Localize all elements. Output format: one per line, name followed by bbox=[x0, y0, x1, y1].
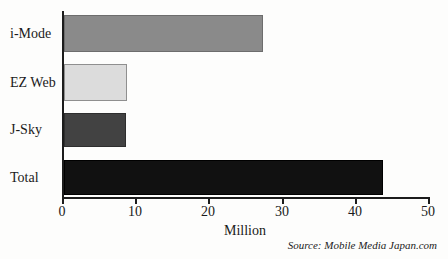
x-tick-label-40: 40 bbox=[335, 204, 375, 220]
category-label-total: Total bbox=[10, 169, 62, 187]
x-tick-label-30: 30 bbox=[262, 204, 302, 220]
bar-chart-figure: i-ModeEZ WebJ-SkyTotal 01020304050 Milli… bbox=[0, 0, 448, 259]
bar-i-mode bbox=[64, 15, 263, 52]
category-label-j-sky: J-Sky bbox=[10, 121, 62, 139]
x-tick-label-10: 10 bbox=[115, 204, 155, 220]
bar-total bbox=[64, 160, 383, 195]
bar-j-sky bbox=[64, 113, 126, 147]
category-label-i-mode: i-Mode bbox=[10, 25, 62, 43]
category-label-ez-web: EZ Web bbox=[10, 74, 62, 92]
x-axis-title: Million bbox=[62, 223, 428, 239]
x-tick-label-0: 0 bbox=[42, 204, 82, 220]
bar-ez-web bbox=[64, 64, 127, 101]
source-note: Source: Mobile Media Japan.com bbox=[288, 239, 437, 251]
x-tick-label-20: 20 bbox=[188, 204, 228, 220]
plot-area bbox=[62, 11, 430, 199]
x-tick-label-50: 50 bbox=[408, 204, 448, 220]
